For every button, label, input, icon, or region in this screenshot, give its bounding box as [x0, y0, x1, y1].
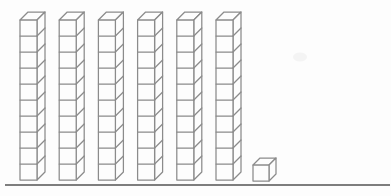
tens-rod-3	[98, 12, 123, 180]
tens-rod-5	[177, 12, 202, 180]
tens-rod-2	[59, 12, 84, 180]
tens-rod-1	[20, 12, 45, 180]
unit-cube-1	[253, 158, 276, 181]
tens-rod-4	[138, 12, 163, 180]
blocks-canvas	[0, 0, 391, 196]
tens-rod-6	[216, 12, 241, 180]
base-ten-blocks-figure	[0, 0, 391, 196]
scan-smudge-artifact	[293, 53, 307, 62]
